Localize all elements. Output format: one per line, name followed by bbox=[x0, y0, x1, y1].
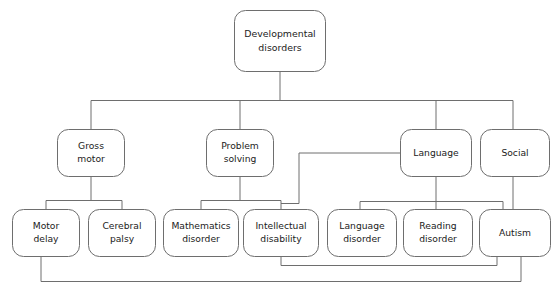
node-gross-motor[interactable]: Gross motor bbox=[58, 130, 125, 177]
node-language-disorder-label-line2: disorder bbox=[343, 233, 381, 244]
node-problem-solving-label-line1: Problem bbox=[221, 140, 259, 151]
node-developmental-disorders-label-line2: disorders bbox=[258, 42, 301, 53]
node-language-label-line1: Language bbox=[413, 147, 459, 158]
edge-intellectual-disability-to-autism bbox=[281, 257, 497, 266]
node-language-disorder[interactable]: Language disorder bbox=[328, 210, 397, 257]
node-language-disorder-label-line1: Language bbox=[339, 220, 385, 231]
node-problem-solving-label-line2: solving bbox=[224, 153, 257, 164]
node-intellectual-disability-label-line1: Intellectual bbox=[255, 220, 306, 231]
node-reading-disorder-label-line2: disorder bbox=[419, 233, 457, 244]
node-motor-delay-label-line2: delay bbox=[33, 233, 59, 244]
node-motor-delay-label-line1: Motor bbox=[33, 220, 60, 231]
node-reading-disorder-label-line1: Reading bbox=[419, 220, 456, 231]
node-gross-motor-label-line2: motor bbox=[77, 153, 105, 164]
node-cerebral-palsy-label-line1: Cerebral bbox=[102, 220, 141, 231]
edge-language-to-intellectual-disability bbox=[281, 153, 400, 204]
node-social[interactable]: Social bbox=[481, 130, 550, 177]
node-social-label-line1: Social bbox=[501, 147, 528, 158]
node-mathematics-disorder-label-line2: disorder bbox=[182, 233, 220, 244]
diagram-canvas: Developmental disorders Gross motor Prob… bbox=[0, 0, 560, 294]
node-language[interactable]: Language bbox=[401, 130, 472, 177]
developmental-disorders-diagram: Developmental disorders Gross motor Prob… bbox=[0, 0, 560, 294]
node-mathematics-disorder[interactable]: Mathematics disorder bbox=[164, 210, 239, 257]
node-autism[interactable]: Autism bbox=[480, 210, 551, 257]
node-mathematics-disorder-label-line1: Mathematics bbox=[171, 220, 230, 231]
node-developmental-disorders-label-line1: Developmental bbox=[244, 28, 315, 39]
node-cerebral-palsy[interactable]: Cerebral palsy bbox=[89, 210, 156, 257]
node-cerebral-palsy-label-line2: palsy bbox=[110, 233, 135, 244]
node-motor-delay[interactable]: Motor delay bbox=[13, 210, 80, 257]
node-developmental-disorders[interactable]: Developmental disorders bbox=[235, 11, 326, 72]
node-problem-solving[interactable]: Problem solving bbox=[207, 130, 274, 177]
node-intellectual-disability-label-line2: disability bbox=[260, 233, 302, 244]
node-reading-disorder[interactable]: Reading disorder bbox=[404, 210, 473, 257]
node-intellectual-disability[interactable]: Intellectual disability bbox=[244, 210, 319, 257]
node-autism-label-line1: Autism bbox=[499, 227, 531, 238]
node-gross-motor-label-line1: Gross bbox=[78, 140, 104, 151]
node-layer: Developmental disorders Gross motor Prob… bbox=[13, 11, 551, 257]
